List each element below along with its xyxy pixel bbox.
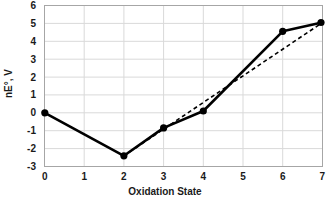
x-tick-label: 5 — [235, 172, 251, 182]
chart-figure: 6 5 4 3 2 1 0 -1 -2 -3 0 1 2 3 4 5 6 7 O… — [0, 0, 330, 203]
x-tick-label: 0 — [37, 172, 53, 182]
y-tick-label: 3 — [14, 55, 36, 65]
data-point-marker — [279, 28, 286, 35]
data-point-marker — [160, 124, 167, 131]
x-tick-label: 2 — [116, 172, 132, 182]
x-tick-label: 7 — [314, 172, 330, 182]
y-axis-title: nE°, V — [3, 54, 14, 114]
y-tick-label: 0 — [14, 108, 36, 118]
y-tick-label: -1 — [14, 126, 36, 136]
y-tick-label: 1 — [14, 90, 36, 100]
x-axis-title: Oxidation State — [0, 186, 330, 197]
y-tick-label: -2 — [14, 144, 36, 154]
y-tick-label: 2 — [14, 73, 36, 83]
y-tick-label: 4 — [14, 37, 36, 47]
data-point-marker — [317, 19, 324, 26]
data-point-marker — [200, 107, 207, 114]
y-tick-label: -3 — [14, 162, 36, 172]
x-tick-label: 1 — [76, 172, 92, 182]
x-tick-label: 4 — [195, 172, 211, 182]
x-tick-label: 3 — [156, 172, 172, 182]
x-tick-label: 6 — [275, 172, 291, 182]
y-tick-label: 5 — [14, 19, 36, 29]
y-tick-label: 6 — [14, 1, 36, 11]
data-point-marker — [41, 109, 48, 116]
data-point-marker — [120, 152, 127, 159]
